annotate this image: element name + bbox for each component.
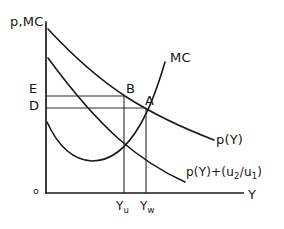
point-label-B: B bbox=[126, 81, 135, 96]
x-axis-label: Y bbox=[247, 187, 256, 202]
point-label-A: A bbox=[145, 93, 154, 108]
x-tick-label-Yu-sub: u bbox=[124, 205, 130, 215]
demand-curve-pY-shifted bbox=[48, 58, 185, 182]
curve-label-pY-shifted: p(Y)+(u2/u1) bbox=[186, 165, 262, 181]
curve-label-mc: MC bbox=[170, 50, 191, 65]
economics-diagram-figure: p,MC Y o E D B A MC p(Y) p(Y)+(u2/u1) Yu… bbox=[0, 0, 284, 229]
y-axis-label: p,MC bbox=[10, 14, 43, 29]
x-tick-label-Yw: Yw bbox=[139, 199, 155, 215]
origin-label: o bbox=[33, 185, 39, 196]
x-tick-label-Yu: Yu bbox=[115, 199, 129, 215]
x-tick-label-Yw-sub: w bbox=[148, 205, 155, 215]
mc-curve bbox=[47, 62, 165, 161]
curve-label-pY-shifted-part2: /u bbox=[240, 165, 252, 179]
diagram-canvas: p,MC Y o E D B A MC p(Y) p(Y)+(u2/u1) Yu… bbox=[0, 0, 284, 229]
curve-label-pY-shifted-part1: p(Y)+(u bbox=[186, 165, 234, 179]
curve-label-pY-shifted-part3: ) bbox=[257, 165, 262, 179]
price-label-E: E bbox=[29, 81, 37, 96]
curve-label-pY: p(Y) bbox=[216, 132, 243, 147]
price-label-D: D bbox=[29, 98, 39, 113]
